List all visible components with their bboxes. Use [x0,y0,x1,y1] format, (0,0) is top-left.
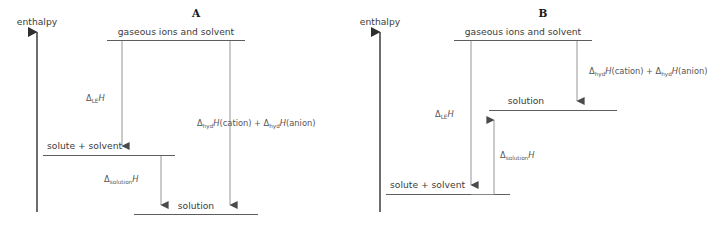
level-gaseous-ions-b: gaseous ions and solvent [454,26,592,41]
panel-title-a: A [191,7,201,19]
hyd-plus-a: + [254,118,261,128]
panel-b: enthalpy B gaseous ions and solvent solu… [360,7,708,212]
enthalpy-axis-label-a: enthalpy [17,16,58,27]
sol-symbol-b: H [528,150,535,160]
arrow-solution-line-b [471,120,494,195]
level-label-middle-a: solute + solvent [47,140,122,151]
hyd-sub2-b: hyd [661,71,672,78]
hyd-sub2-a: hyd [269,123,280,130]
hyd-species2-b: (anion) [678,66,707,76]
enthalpy-cycle-figure: enthalpy A gaseous ions and solvent solu… [0,0,721,227]
diagram-canvas: enthalpy A gaseous ions and solvent solu… [0,0,721,227]
arrow-lattice-enthalpy-a: ΔLEH [86,41,122,146]
sol-sub-b: solution [506,155,529,161]
level-label-bottom-b: solute + solvent [390,179,465,190]
arrow-lattice-label-a: ΔLEH [86,93,105,104]
lattice-symbol-a: H [98,93,105,103]
arrow-hydration-enthalpy-a: ΔhydH(cation)+ΔhydH(anion) [197,41,316,205]
enthalpy-axis-label-b: enthalpy [360,16,401,27]
arrow-lattice-enthalpy-b: ΔLEH [435,41,471,185]
arrow-solution-enthalpy-b: ΔsolutionH [471,120,535,195]
hyd-plus-b: + [646,66,653,76]
level-solute-solvent-a: solute + solvent [43,140,175,156]
arrow-lattice-label-b: ΔLEH [435,109,454,120]
level-label-top-b: gaseous ions and solvent [465,26,582,37]
panel-title-b: B [539,7,548,19]
arrow-hydration-label-a: ΔhydH(cation)+ΔhydH(anion) [197,118,316,130]
level-solute-solvent-b: solute + solvent [386,179,510,195]
lattice-symbol-b: H [447,109,454,119]
arrow-solution-label-a: ΔsolutionH [104,174,139,185]
level-label-top-a: gaseous ions and solvent [118,26,235,37]
hyd-species1-a: (cation) [220,118,252,128]
arrow-solution-label-b: ΔsolutionH [500,150,535,161]
level-solution-b: solution [489,95,617,111]
panel-a: enthalpy A gaseous ions and solvent solu… [17,7,316,215]
level-label-bottom-a: solution [178,200,215,211]
hyd-sub1-a: hyd [203,123,214,130]
level-label-middle-b: solution [508,95,545,106]
level-solution-a: solution [134,200,258,215]
arrow-hydration-label-b: ΔhydH(cation)+ΔhydH(anion) [589,66,708,78]
arrow-hydration-enthalpy-b: ΔhydH(cation)+ΔhydH(anion) [577,41,708,101]
level-gaseous-ions-a: gaseous ions and solvent [107,26,245,41]
hyd-species2-a: (anion) [286,118,315,128]
arrow-solution-enthalpy-a: ΔsolutionH [104,156,161,205]
hyd-species1-b: (cation) [612,66,644,76]
hyd-sub1-b: hyd [595,71,606,78]
sol-symbol-a: H [132,174,139,184]
enthalpy-axis-a: enthalpy [17,16,58,212]
sol-sub-a: solution [110,179,133,185]
